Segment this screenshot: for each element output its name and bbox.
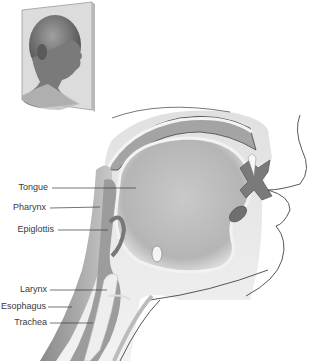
- label-larynx: Larynx: [20, 284, 47, 295]
- label-esophagus: Esophagus: [1, 301, 46, 312]
- anatomy-illustration: [0, 0, 318, 361]
- portrait-inset: [22, 2, 95, 112]
- label-epiglottis: Epiglottis: [17, 224, 54, 235]
- label-trachea: Trachea: [14, 317, 47, 328]
- anatomy-figure: Tongue Pharynx Epiglottis Larynx Esophag…: [0, 0, 318, 361]
- label-tongue: Tongue: [18, 182, 48, 193]
- label-pharynx: Pharynx: [13, 202, 46, 213]
